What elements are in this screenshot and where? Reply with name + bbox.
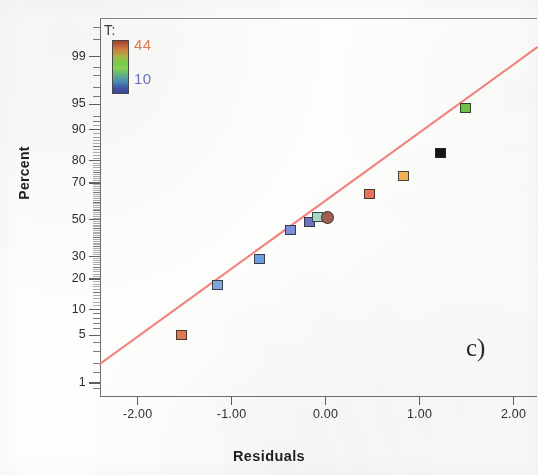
data-point-marker (460, 103, 471, 113)
data-point-marker (254, 254, 265, 264)
data-point-marker (364, 189, 375, 199)
legend-title: T: (104, 22, 116, 38)
normal-probability-plot: 99959080705030201051 -2.00-1.000.001.002… (0, 0, 538, 475)
data-point-marker (321, 211, 334, 224)
data-point-marker (212, 280, 223, 290)
data-point-marker (435, 148, 446, 158)
data-point-marker (398, 171, 409, 181)
legend-max-value: 44 (134, 36, 151, 53)
data-point-marker (176, 330, 187, 340)
colorbar-legend: T: 44 10 (104, 22, 184, 94)
data-point-marker (285, 225, 296, 235)
legend-min-value: 10 (134, 70, 151, 87)
scatter-series (0, 0, 538, 475)
colorbar-gradient-icon (112, 40, 129, 94)
